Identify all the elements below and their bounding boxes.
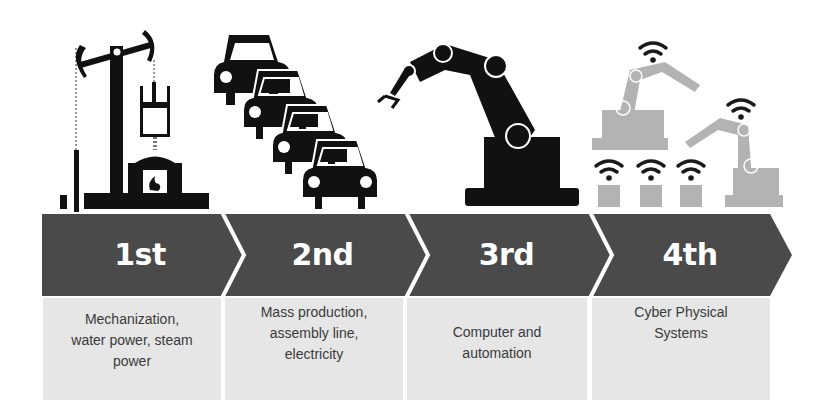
description-line: power	[43, 351, 221, 372]
stage-description-2nd: Mass production, assembly line, electric…	[225, 298, 403, 400]
description-line: automation	[407, 343, 587, 364]
industrial-revolution-diagram: 1st 2nd 3rd 4th Mechanization, water pow…	[0, 0, 838, 417]
stage-label-3rd: 3rd	[424, 230, 589, 280]
stage-description-4th: Cyber Physical Systems	[592, 298, 770, 400]
stage-label-2nd: 2nd	[240, 230, 405, 280]
description-line: Mass production,	[225, 302, 403, 323]
description-line: electricity	[225, 344, 403, 365]
description-line: Computer and	[407, 322, 587, 343]
description-line: Systems	[592, 323, 770, 344]
description-line: water power, steam	[43, 330, 221, 351]
stage-label-1st: 1st	[60, 230, 220, 280]
stage-description-3rd: Computer and automation	[407, 298, 587, 400]
description-line: assembly line,	[225, 323, 403, 344]
stage-label-4th: 4th	[610, 230, 770, 280]
stage-description-1st: Mechanization, water power, steam power	[43, 298, 221, 400]
description-line: Cyber Physical	[592, 302, 770, 323]
description-line: Mechanization,	[43, 309, 221, 330]
